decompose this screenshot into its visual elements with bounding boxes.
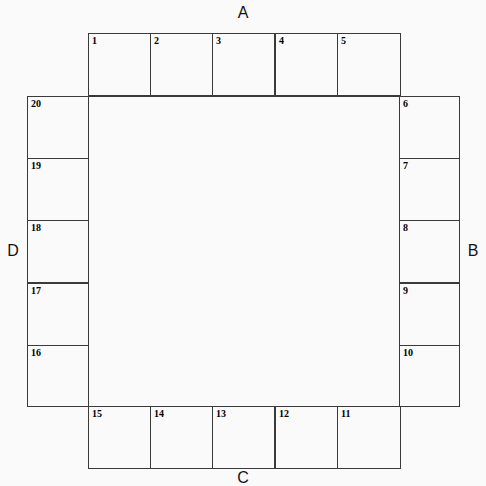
cell-6[interactable]: 6 [399, 96, 460, 159]
cell-number: 6 [403, 98, 408, 109]
cell-number: 19 [31, 160, 41, 171]
cell-number: 3 [216, 35, 221, 46]
cell-number: 7 [403, 160, 408, 171]
cell-13[interactable]: 13 [212, 406, 275, 469]
cell-number: 20 [31, 98, 41, 109]
cell-18[interactable]: 18 [27, 220, 89, 283]
cell-7[interactable]: 7 [399, 158, 460, 221]
cell-1[interactable]: 1 [88, 33, 151, 96]
cell-17[interactable]: 17 [27, 283, 89, 346]
cell-11[interactable]: 11 [337, 406, 401, 469]
cell-15[interactable]: 15 [88, 406, 151, 469]
cell-number: 4 [279, 35, 284, 46]
cell-12[interactable]: 12 [275, 406, 338, 469]
cell-5[interactable]: 5 [337, 33, 401, 96]
cell-3[interactable]: 3 [212, 33, 275, 96]
side-label-c: C [223, 470, 263, 486]
cell-number: 1 [92, 35, 97, 46]
cell-number: 17 [31, 285, 41, 296]
inner-courtyard-rect [88, 96, 400, 407]
cell-number: 10 [403, 347, 413, 358]
cell-number: 16 [31, 347, 41, 358]
side-label-a: A [223, 5, 263, 21]
cell-number: 13 [216, 408, 226, 419]
cell-14[interactable]: 14 [150, 406, 213, 469]
cell-number: 18 [31, 222, 41, 233]
cell-number: 12 [279, 408, 289, 419]
cell-9[interactable]: 9 [399, 283, 460, 346]
cell-number: 9 [403, 285, 408, 296]
cell-16[interactable]: 16 [27, 345, 89, 407]
cell-20[interactable]: 20 [27, 96, 89, 159]
cell-number: 2 [154, 35, 159, 46]
cell-number: 8 [403, 222, 408, 233]
cell-number: 14 [154, 408, 164, 419]
cell-4[interactable]: 4 [275, 33, 338, 96]
cell-10[interactable]: 10 [399, 345, 460, 407]
cell-number: 5 [341, 35, 346, 46]
cell-8[interactable]: 8 [399, 220, 460, 283]
cell-number: 15 [92, 408, 102, 419]
cell-number: 11 [341, 408, 350, 419]
cell-19[interactable]: 19 [27, 158, 89, 221]
cell-2[interactable]: 2 [150, 33, 213, 96]
